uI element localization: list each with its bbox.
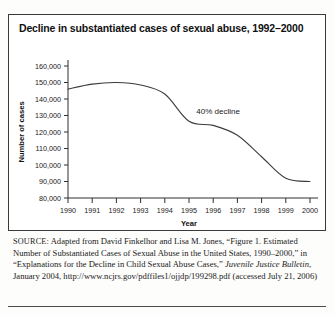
- y-axis: 160,000150,000140,000130,000120,000110,0…: [35, 60, 68, 203]
- x-axis: 1990199119921993199419951996199719981999…: [60, 198, 318, 215]
- x-tick-label: 1996: [205, 206, 221, 215]
- y-tick-label: 140,000: [35, 95, 61, 104]
- y-tick-label: 130,000: [35, 111, 61, 120]
- chart-annotations: 40% decline: [196, 107, 240, 116]
- x-tick-label: 1992: [108, 206, 124, 215]
- source-note: SOURCE: Adapted from David Finkelhor and…: [13, 236, 323, 282]
- source-label: SOURCE:: [13, 237, 49, 246]
- x-tick-label: 1997: [229, 206, 245, 215]
- source-journal-title: Juvenile Justice Bulletin: [225, 259, 309, 269]
- figure-container: Decline in substantiated cases of sexual…: [0, 0, 334, 315]
- y-tick-label: 160,000: [35, 62, 61, 71]
- y-tick-label: 120,000: [35, 128, 61, 137]
- x-tick-label: 1994: [157, 206, 173, 215]
- x-tick-label: 1990: [60, 206, 76, 215]
- x-tick-label: 1995: [181, 206, 197, 215]
- x-tick-label: 1991: [84, 206, 100, 215]
- x-tick-label: 2000: [302, 206, 318, 215]
- series-line: [68, 82, 310, 181]
- x-tick-label: 1999: [278, 206, 294, 215]
- x-tick-label: 1998: [254, 206, 270, 215]
- y-tick-label: 150,000: [35, 78, 61, 87]
- x-tick-label: 1993: [133, 206, 149, 215]
- y-tick-label: 90,000: [39, 177, 61, 186]
- bottom-divider: [8, 306, 326, 307]
- chart-plot-area: 160,000150,000140,000130,000120,000110,0…: [8, 14, 326, 231]
- y-tick-label: 110,000: [36, 144, 61, 153]
- decline-annotation: 40% decline: [196, 107, 240, 116]
- data-series: [68, 82, 310, 181]
- y-tick-label: 80,000: [39, 194, 61, 203]
- line-chart: 160,000150,000140,000130,000120,000110,0…: [8, 14, 326, 231]
- x-axis-title: Year: [181, 219, 197, 228]
- y-axis-title: Number of cases: [17, 101, 26, 162]
- y-tick-label: 100,000: [35, 161, 61, 170]
